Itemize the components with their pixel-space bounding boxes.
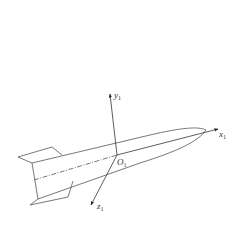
rocket-centerline — [34, 155, 117, 180]
coordinate-axes — [91, 94, 218, 205]
rocket-coordinate-diagram: x1 y1 z1 O1 — [0, 0, 239, 229]
x-axis-line — [117, 129, 218, 155]
rocket-rear-edge — [32, 163, 38, 199]
lower-tail-fin — [30, 181, 73, 205]
z-axis-label: z1 — [96, 201, 104, 212]
y-axis-line — [110, 94, 117, 155]
axis-labels: x1 y1 z1 O1 — [96, 90, 226, 212]
z-axis-line — [91, 155, 117, 205]
y-axis-label: y1 — [113, 90, 121, 101]
origin-label: O1 — [117, 157, 127, 168]
upper-tail-fin — [18, 147, 62, 163]
x-axis-label: x1 — [218, 129, 226, 140]
